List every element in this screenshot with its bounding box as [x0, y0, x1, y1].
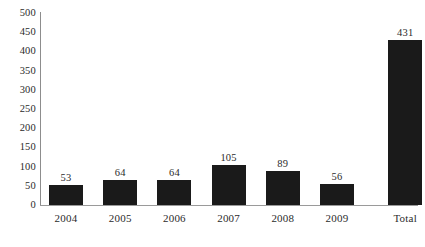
x-axis-label-2005: 2005 [94, 212, 146, 225]
y-axis-tick-50: 50 [0, 181, 36, 191]
y-axis-tick-0: 0 [0, 200, 36, 210]
y-axis-tick-300: 300 [0, 85, 36, 95]
y-axis-tick-400: 400 [0, 46, 36, 56]
x-axis-category-labels: 200420052006200720082009Total [40, 0, 425, 247]
x-axis-label-total: Total [379, 212, 425, 225]
y-axis-tick-150: 150 [0, 142, 36, 152]
x-axis-label-2008: 2008 [257, 212, 309, 225]
y-axis-tick-250: 250 [0, 104, 36, 114]
bar-chart: 500450400350300250200150100500 536464105… [0, 0, 425, 247]
y-axis-tick-500: 500 [0, 8, 36, 18]
y-axis-tick-450: 450 [0, 27, 36, 37]
x-axis-label-2007: 2007 [203, 212, 255, 225]
x-axis-label-2009: 2009 [311, 212, 363, 225]
y-axis-tick-350: 350 [0, 66, 36, 76]
y-axis-tick-200: 200 [0, 123, 36, 133]
x-axis-label-2006: 2006 [148, 212, 200, 225]
x-axis-label-2004: 2004 [40, 212, 92, 225]
y-axis-tick-labels: 500450400350300250200150100500 [0, 0, 36, 247]
y-axis-tick-100: 100 [0, 162, 36, 172]
